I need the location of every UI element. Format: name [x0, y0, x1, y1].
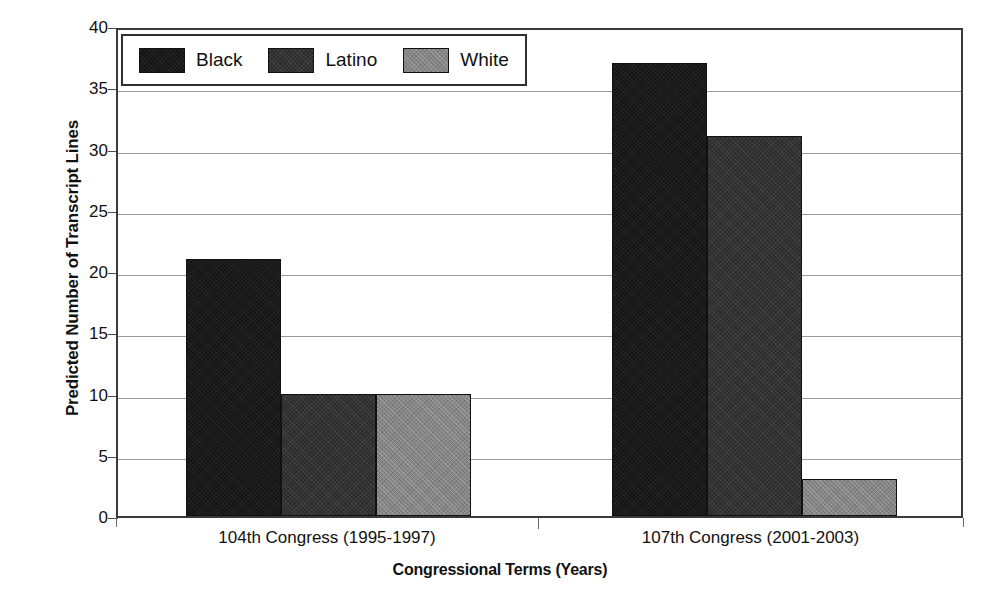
bar-black-group2	[612, 63, 707, 516]
legend-item-white: White	[403, 48, 509, 73]
x-axis-title: Congressional Terms (Years)	[0, 561, 1000, 579]
legend-swatch-latino-icon	[268, 48, 314, 73]
gridline	[118, 214, 961, 215]
y-tick-label: 35	[62, 79, 108, 99]
y-tick-label: 40	[62, 18, 108, 38]
x-category-label-107th: 107th Congress (2001-2003)	[538, 528, 963, 548]
legend-item-latino: Latino	[268, 48, 377, 73]
y-tick-label: 25	[62, 202, 108, 222]
y-tick-label: 20	[62, 263, 108, 283]
bar-chart-figure: Predicted Number of Transcript Lines 051…	[0, 0, 1000, 590]
bar-latino-group1	[281, 394, 376, 517]
y-tick-label: 15	[62, 324, 108, 344]
bar-latino-group2	[707, 136, 802, 516]
legend-swatch-black-icon	[139, 48, 185, 73]
y-tick-label: 5	[62, 447, 108, 467]
legend-label-white: White	[460, 49, 509, 71]
x-category-label-104th: 104th Congress (1995-1997)	[116, 528, 538, 548]
y-tick-label: 30	[62, 141, 108, 161]
y-tick-label: 10	[62, 386, 108, 406]
bar-white-group2	[802, 479, 897, 516]
gridline	[118, 91, 961, 92]
y-tick-label: 0	[62, 508, 108, 528]
bar-white-group1	[376, 394, 471, 517]
legend-label-latino: Latino	[325, 49, 377, 71]
legend-swatch-white-icon	[403, 48, 449, 73]
x-tick-right	[963, 518, 964, 527]
legend-label-black: Black	[196, 49, 242, 71]
x-tick-left	[116, 518, 117, 527]
plot-area: Black Latino White	[116, 28, 963, 518]
gridline	[118, 153, 961, 154]
legend-item-black: Black	[139, 48, 242, 73]
legend: Black Latino White	[121, 34, 527, 86]
bar-black-group1	[186, 259, 281, 516]
